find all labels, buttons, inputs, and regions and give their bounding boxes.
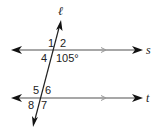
angle-1: 1 xyxy=(48,37,54,49)
arrow-up-icon xyxy=(56,20,63,31)
angle-7: 7 xyxy=(41,99,47,111)
label-t: t xyxy=(146,91,150,105)
angle-3-value: 105° xyxy=(56,52,79,64)
angle-6: 6 xyxy=(45,84,51,96)
label-s: s xyxy=(146,43,151,57)
angle-5: 5 xyxy=(33,84,39,96)
parallel-lines-diagram: ℓ s t 1 2 4 105° 5 6 8 7 xyxy=(0,0,162,135)
angle-2: 2 xyxy=(60,37,66,49)
label-l: ℓ xyxy=(58,4,63,18)
angle-4: 4 xyxy=(41,52,47,64)
angle-8: 8 xyxy=(28,99,34,111)
